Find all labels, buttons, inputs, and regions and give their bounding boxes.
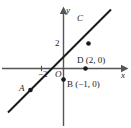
x-axis <box>2 65 129 72</box>
point-marker-D <box>83 66 88 71</box>
coordinate-plane-figure: y x O 2 −2 A B (−1, 0) C D (2, 0) <box>0 0 131 128</box>
point-marker-C <box>86 41 91 46</box>
x-tick-label-neg2: −2 <box>38 70 48 79</box>
point-label-A: A <box>19 84 25 93</box>
point-label-C: C <box>77 14 83 23</box>
point-label-D: D (2, 0) <box>77 56 105 65</box>
y-axis <box>60 7 67 127</box>
y-tick-label-2: 2 <box>55 39 60 48</box>
figure-canvas <box>0 0 131 128</box>
point-label-B: B (−1, 0) <box>67 80 100 89</box>
x-axis-label: x <box>121 71 125 80</box>
point-marker-A <box>28 88 33 93</box>
y-axis-label: y <box>66 6 70 15</box>
origin-label: O <box>55 70 62 79</box>
